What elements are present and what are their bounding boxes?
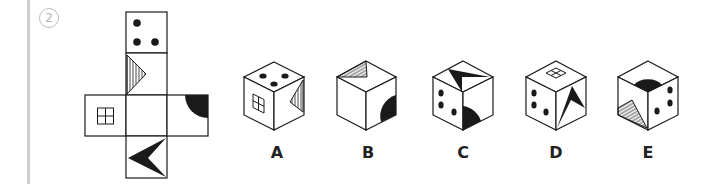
net-face-center xyxy=(126,95,167,136)
net-face-left xyxy=(85,95,126,136)
cube-option-a[interactable] xyxy=(244,62,304,130)
net-face-upper xyxy=(126,53,167,95)
cube-option-b[interactable] xyxy=(337,61,396,130)
option-label-e: E xyxy=(638,143,658,162)
option-label-d: D xyxy=(546,143,566,162)
cube-net xyxy=(85,12,208,178)
net-face-right xyxy=(167,95,208,136)
cube-option-c[interactable] xyxy=(433,61,493,130)
option-label-c: C xyxy=(453,143,473,162)
option-label-a: A xyxy=(267,143,287,162)
net-face-top xyxy=(126,12,167,53)
net-face-bottom xyxy=(126,136,167,178)
cube-option-e[interactable] xyxy=(618,61,678,130)
hatched-triangle-icon xyxy=(337,61,367,77)
cube-option-d[interactable] xyxy=(526,61,586,130)
option-label-b: B xyxy=(358,143,378,162)
